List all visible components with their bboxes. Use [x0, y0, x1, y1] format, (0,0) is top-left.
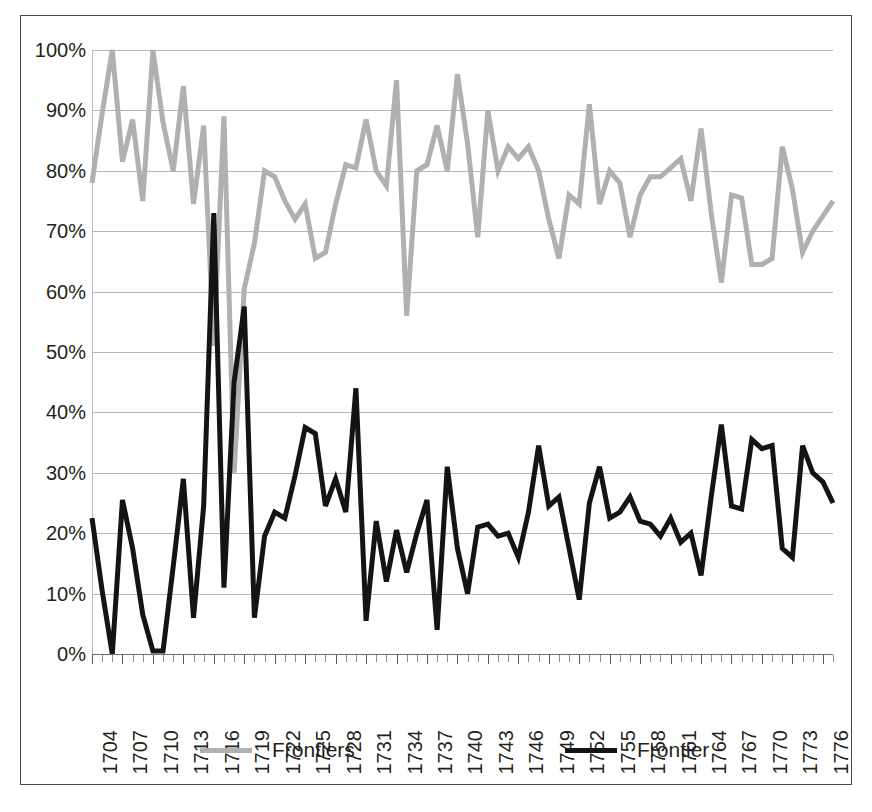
y-axis-tick-label: 70% — [20, 220, 86, 243]
x-axis-tick — [92, 655, 93, 664]
x-axis-tick — [752, 655, 753, 662]
x-axis-tick — [498, 655, 499, 662]
x-axis-tick — [244, 655, 245, 664]
x-axis-tick — [640, 655, 641, 664]
x-axis-tick — [681, 655, 682, 662]
x-axis-tick — [224, 655, 225, 662]
x-axis-tick — [468, 655, 469, 662]
x-axis-tick — [356, 655, 357, 662]
x-axis-tick — [528, 655, 529, 662]
y-axis-tick-label: 10% — [20, 582, 86, 605]
x-axis-tick — [214, 655, 215, 664]
x-axis-tick — [488, 655, 489, 664]
x-axis-tick — [305, 655, 306, 664]
x-axis-tick — [153, 655, 154, 664]
x-axis-tick — [285, 655, 286, 662]
y-axis-tick-labels: 0%10%20%30%40%50%60%70%80%90%100% — [20, 0, 86, 812]
plot-area — [92, 50, 833, 654]
x-axis-tick — [711, 655, 712, 662]
x-axis-tick — [336, 655, 337, 664]
x-axis-tick — [183, 655, 184, 664]
x-axis-tick — [803, 655, 804, 662]
x-axis-tick — [762, 655, 763, 664]
x-axis-tick — [234, 655, 235, 662]
y-axis-tick-label: 20% — [20, 522, 86, 545]
x-axis-tick — [275, 655, 276, 664]
x-axis-tick — [407, 655, 408, 662]
x-axis-tick — [386, 655, 387, 662]
legend-label-frontiers: Frontiers — [272, 738, 355, 762]
x-axis-tick — [620, 655, 621, 662]
x-axis-tick — [346, 655, 347, 662]
x-axis-tick — [650, 655, 651, 662]
x-axis-tick — [549, 655, 550, 664]
x-axis-tick — [671, 655, 672, 664]
legend-entry-frontiers[interactable]: Frontiers — [200, 735, 355, 765]
x-axis-tick — [539, 655, 540, 662]
x-axis-tick — [742, 655, 743, 662]
x-axis-tick — [833, 655, 834, 662]
y-axis-tick-label: 0% — [20, 643, 86, 666]
x-axis-tick — [173, 655, 174, 662]
x-axis-tick — [569, 655, 570, 662]
y-axis-tick-label: 50% — [20, 341, 86, 364]
x-axis-tick — [701, 655, 702, 664]
y-axis-tick-label: 100% — [20, 39, 86, 62]
x-axis-tick — [589, 655, 590, 662]
x-axis-tick — [478, 655, 479, 662]
x-axis-tick — [366, 655, 367, 664]
series-line-frontiers — [92, 50, 833, 473]
legend-swatch-frontier — [565, 748, 617, 753]
y-axis-tick-label: 90% — [20, 99, 86, 122]
x-axis-tick — [447, 655, 448, 662]
legend-entry-frontier[interactable]: Frontier — [565, 735, 709, 765]
x-axis-tick — [792, 655, 793, 664]
chart-figure: 0%10%20%30%40%50%60%70%80%90%100% 170417… — [0, 0, 872, 812]
x-axis-tick — [194, 655, 195, 662]
x-axis-tick — [437, 655, 438, 662]
legend-swatch-frontiers — [200, 748, 252, 753]
x-axis-ticks — [92, 655, 833, 664]
x-axis-tick — [630, 655, 631, 662]
x-axis-tick — [112, 655, 113, 662]
x-axis-tick — [518, 655, 519, 664]
y-axis-tick-label: 80% — [20, 159, 86, 182]
x-axis-tick — [265, 655, 266, 662]
x-axis-tick — [457, 655, 458, 664]
x-axis-tick — [772, 655, 773, 662]
x-axis-tick — [325, 655, 326, 662]
x-axis-tick — [315, 655, 316, 662]
x-axis-tick — [823, 655, 824, 664]
series-lines — [92, 50, 833, 654]
x-axis-tick — [143, 655, 144, 662]
x-axis-tick-labels: 1704170717101713171617191722172517281731… — [92, 664, 833, 734]
chart-legend: Frontiers Frontier — [20, 735, 852, 781]
y-axis-tick-label: 30% — [20, 461, 86, 484]
x-axis-tick — [579, 655, 580, 664]
x-axis-tick — [731, 655, 732, 664]
x-axis-tick — [102, 655, 103, 662]
x-axis-tick — [813, 655, 814, 662]
x-axis-tick — [508, 655, 509, 662]
x-axis-tick — [691, 655, 692, 662]
x-axis-tick — [133, 655, 134, 662]
legend-label-frontier: Frontier — [637, 738, 709, 762]
x-axis-tick — [559, 655, 560, 662]
x-axis-tick — [204, 655, 205, 662]
x-axis-tick — [600, 655, 601, 662]
x-axis-tick — [254, 655, 255, 662]
x-axis-tick — [295, 655, 296, 662]
x-axis-tick — [122, 655, 123, 664]
x-axis-tick — [163, 655, 164, 662]
y-axis-tick-label: 40% — [20, 401, 86, 424]
x-axis-tick — [610, 655, 611, 664]
x-axis-tick — [417, 655, 418, 662]
x-axis-tick — [660, 655, 661, 662]
x-axis-tick — [376, 655, 377, 662]
x-axis-tick — [397, 655, 398, 664]
x-axis-tick — [782, 655, 783, 662]
x-axis-tick — [721, 655, 722, 662]
x-axis-tick — [427, 655, 428, 664]
y-axis-tick-label: 60% — [20, 280, 86, 303]
